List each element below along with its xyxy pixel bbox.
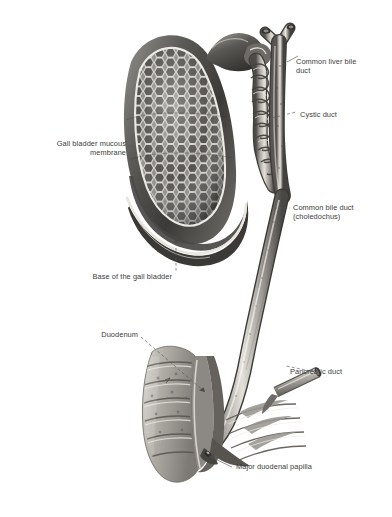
label-duodenum: Duodenum (64, 330, 138, 339)
label-cystic-duct: Cystic duct (300, 110, 388, 119)
anatomy-illustration (0, 0, 392, 517)
label-common-bile-duct: Common bile duct (choledochus) (293, 203, 388, 222)
gall-bladder (124, 33, 271, 266)
label-pancreatic-duct: Pancreatic duct (290, 367, 388, 376)
label-major-duodenal-papilla: Major duodenal papilla (236, 462, 386, 471)
label-base-of-gall-bladder: Base of the gall bladder (58, 272, 172, 281)
anatomy-figure: Common liver bile duct Cystic duct Commo… (0, 0, 392, 517)
label-gall-bladder-mucous-membrane: Gall bladder mucous membrane (22, 139, 126, 158)
label-common-liver-bile-duct: Common liver bile duct (296, 57, 388, 76)
